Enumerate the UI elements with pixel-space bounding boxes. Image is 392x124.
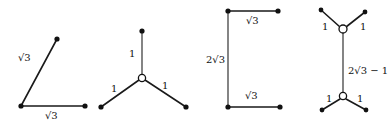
figure-bracket-three-edges: √3 2√3 √3	[206, 8, 283, 109]
edge-left	[21, 39, 57, 106]
terminal-node	[82, 103, 87, 108]
steiner-point	[339, 92, 346, 99]
terminal-node	[363, 10, 368, 15]
terminal-node	[275, 8, 280, 13]
terminal-node	[18, 103, 23, 108]
edge-label: 1	[326, 93, 332, 104]
edge-label: √3	[18, 52, 31, 63]
terminal-node	[277, 104, 282, 109]
terminal-node	[225, 8, 230, 13]
edge-label: 2√3 − 1	[348, 65, 388, 76]
edge-label: 2√3	[206, 54, 225, 65]
terminal-node	[364, 108, 369, 113]
terminal-node	[98, 104, 103, 109]
figure-angle-two-edges: √3 √3	[18, 36, 88, 121]
edge-label: 1	[162, 80, 168, 91]
edge-left	[101, 80, 139, 107]
edge-label: 1	[360, 21, 366, 32]
terminal-node	[139, 28, 144, 33]
edge-label: 1	[129, 48, 135, 59]
steiner-point	[138, 74, 145, 81]
edge-label: 1	[322, 21, 328, 32]
figure-steiner-double-star: 1 1 2√3 − 1 1 1	[319, 8, 389, 113]
terminal-node	[225, 104, 230, 109]
steiner-point	[339, 25, 347, 33]
diagram-canvas: √3 √3 1 1 1 √3 2√3 √3	[0, 0, 392, 124]
figure-steiner-three-star: 1 1 1	[98, 28, 188, 109]
terminal-node	[54, 36, 59, 41]
edge-label: √3	[246, 15, 259, 26]
terminal-node	[319, 8, 324, 13]
edge-label: √3	[45, 110, 58, 121]
edge-label: 1	[111, 83, 117, 94]
terminal-node	[183, 104, 188, 109]
edge-label: 1	[357, 93, 363, 104]
terminal-node	[320, 108, 325, 113]
edge-label: √3	[245, 90, 258, 101]
